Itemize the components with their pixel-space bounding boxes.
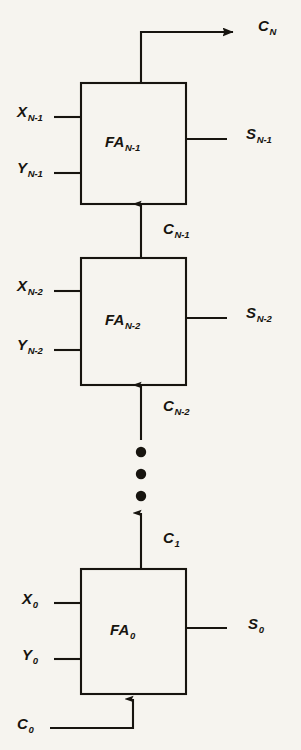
label-y-0: Y0 xyxy=(22,647,37,663)
label-fa-n-1: FAN-1 xyxy=(105,134,140,150)
ellipsis-dots xyxy=(136,447,146,501)
label-carry-n-2: CN-2 xyxy=(163,398,189,414)
label-s-0: S0 xyxy=(248,616,263,632)
adder-diagram-svg xyxy=(0,0,301,750)
label-fa-0: FA0 xyxy=(110,622,135,638)
label-fa-n-2: FAN-2 xyxy=(105,312,140,328)
label-carry-n-1: CN-1 xyxy=(163,221,189,237)
carry-in-0-wire xyxy=(50,699,133,728)
figure-canvas: CN FAN-1 XN-1 YN-1 SN-1 CN-1 FAN-2 XN-2 … xyxy=(0,0,301,750)
label-s-n-1: SN-1 xyxy=(246,126,271,142)
carry-out-n-wire xyxy=(141,32,233,83)
label-s-n-2: SN-2 xyxy=(246,305,271,321)
label-y-n-2: YN-2 xyxy=(17,337,42,353)
label-carry-0: C0 xyxy=(17,716,33,732)
label-x-0: X0 xyxy=(22,591,37,607)
label-carry-1: C1 xyxy=(163,530,179,546)
label-carry-out-n: CN xyxy=(258,18,276,34)
label-x-n-2: XN-2 xyxy=(17,278,42,294)
label-y-n-1: YN-1 xyxy=(17,160,42,176)
label-x-n-1: XN-1 xyxy=(17,104,42,120)
